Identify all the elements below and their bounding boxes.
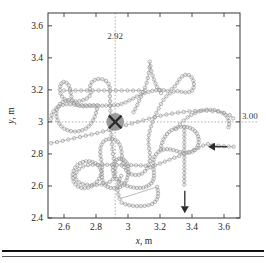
trajectory-point [132,186,135,189]
trajectory-point [184,91,187,94]
trajectory-point [157,107,160,110]
x-tick-label: 3.2 [154,222,166,232]
trajectory-point [217,110,220,113]
trajectory-point [183,168,186,171]
trajectory-point [176,89,179,92]
trajectory-point [104,79,107,82]
trajectory-point [151,89,154,92]
trajectory-point [134,164,137,167]
trajectory-point [184,73,187,76]
trajectory-point [147,117,150,120]
trajectory-point [150,69,153,72]
trajectory-point [109,109,112,112]
trajectory-point [180,90,183,93]
vertical-reference-label: 2.92 [107,31,123,41]
trajectory-point [138,99,141,102]
trajectory-point [90,133,93,136]
trajectory-point [71,176,74,179]
horizontal-reference-label: 3.00 [242,111,258,121]
trajectory-point [108,99,111,102]
trajectory-point [85,97,88,100]
trajectory-point [190,113,193,116]
trajectory-point [55,112,58,115]
down-arrow [181,191,189,213]
figure-container: 2.62.833.23.43.63.63.43.232.82.62.4 2.92… [0,0,266,263]
trajectory-point [58,122,61,125]
trajectory-point [232,117,235,120]
trajectory-point [211,109,214,112]
trajectory-point [178,150,181,153]
trajectory-point [147,147,150,150]
trajectory-point [168,158,171,161]
trajectory-point [153,115,156,118]
trajectory-point [108,104,111,107]
trajectory-point [183,148,186,151]
trajectory-point [183,125,186,128]
trajectory-point [183,183,186,186]
trajectory-point [111,169,114,172]
trajectory-point [97,89,100,92]
trajectory-point [91,119,94,122]
trajectory-point [183,152,186,155]
trajectory-point [94,111,97,114]
y-tick-label: 3 [38,117,43,127]
trajectory-point [92,104,95,107]
trajectory-series-layer [50,60,236,208]
trajectory-point [222,111,225,114]
trajectory-point [99,146,102,149]
trajectory-point [120,102,123,105]
trajectory-point [151,74,154,77]
trajectory-point [82,165,85,168]
trajectory-point [155,85,158,88]
trajectory-point [108,89,111,92]
trajectory-point [100,175,103,178]
trajectory-point [148,159,151,162]
trajectory-point [68,89,71,92]
trajectory-point [97,77,100,80]
trajectory-point [78,167,81,170]
trajectory-point [131,204,134,207]
trajectory-point [147,138,150,141]
trajectory-point [142,119,145,122]
trajectory-point [147,143,150,146]
y-tick-label: 3.4 [31,53,43,63]
trajectory-point [108,180,111,183]
trajectory-point [116,189,119,192]
trajectory-point [118,197,121,200]
trajectory-point [160,144,163,147]
arrow-head [181,206,189,213]
trajectory-point [69,130,72,133]
trajectory-point [72,180,75,183]
trajectory-point [110,133,113,136]
trajectory-point [109,186,112,189]
trajectory-point [122,165,125,168]
trajectory-point [72,169,75,172]
trajectory-point [81,182,84,185]
trajectory-point [131,89,134,92]
trajectory-point [202,144,205,147]
trajectory-point [84,104,87,107]
trajectory-point [108,95,111,98]
trajectory-point [88,160,91,163]
trajectory-point [174,127,177,130]
trajectory-point [103,89,106,92]
x-tick-label: 2.8 [90,222,102,232]
trajectory-point [139,95,142,98]
trajectory-point [85,89,88,92]
trajectory-series [50,98,99,133]
trajectory-point [67,84,70,87]
trajectory-point [187,90,190,93]
trajectory-point [156,195,159,198]
trajectory-point [183,175,186,178]
trajectory-point [67,98,70,101]
trajectory-point [64,99,67,102]
trajectory-point [168,92,171,95]
trajectory-point [99,169,102,172]
trajectory-point [58,88,61,91]
trajectory-point [129,185,132,188]
trajectory-point [73,103,76,106]
trajectory-point [136,103,139,106]
trajectory-point [96,131,99,134]
trajectory-point [81,160,84,163]
trajectory-point [178,123,181,126]
